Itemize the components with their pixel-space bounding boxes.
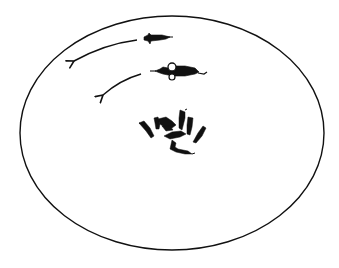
arena-figure: Line drawing of a circular/oval arena wi… — [0, 0, 339, 268]
arrow-lower-icon — [103, 74, 141, 95]
arrow-upper-icon — [74, 40, 137, 61]
animal-lower-with-loop-icon — [150, 63, 207, 80]
animal-upper-icon — [144, 33, 173, 44]
animal-cluster-icon — [139, 109, 206, 154]
figure-canvas — [0, 0, 339, 268]
